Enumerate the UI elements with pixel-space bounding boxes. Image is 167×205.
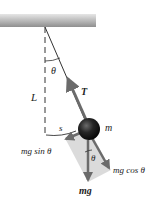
tension-label: T bbox=[81, 86, 88, 97]
pendulum-diagram: θ L T m s mg sin θ mg cos θ mg θ bbox=[0, 0, 167, 205]
tangential-component-label: mg sin θ bbox=[21, 146, 52, 156]
pendulum-bob bbox=[78, 118, 100, 140]
angle-label: θ bbox=[51, 65, 56, 76]
weight-angle-label: θ bbox=[91, 153, 96, 163]
radial-component-label: mg cos θ bbox=[113, 165, 145, 175]
length-label: L bbox=[30, 91, 37, 103]
angle-arc bbox=[45, 58, 60, 61]
weight-label: mg bbox=[79, 185, 92, 196]
mass-label: m bbox=[105, 122, 112, 133]
ceiling-support bbox=[0, 14, 96, 27]
arc-length-label: s bbox=[59, 123, 63, 133]
